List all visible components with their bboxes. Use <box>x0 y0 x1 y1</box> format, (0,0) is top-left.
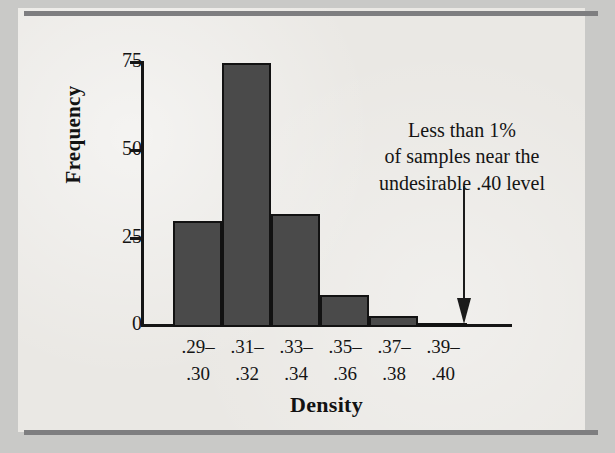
x-axis-title: Density <box>141 392 512 418</box>
y-axis-title: Frequency <box>61 55 86 215</box>
y-tick-label-0: 0 <box>96 313 142 333</box>
figure-root: Frequency 75 50 25 0 .29– .30 <box>0 0 615 453</box>
bar-1 <box>222 63 271 327</box>
bar-4 <box>369 316 418 327</box>
x-label-5-line2: .40 <box>412 361 474 388</box>
annotation-line-1: Less than 1% <box>336 117 588 143</box>
arrow-head <box>457 298 471 324</box>
annotation-callout: Less than 1% of samples near the undesir… <box>336 117 588 196</box>
y-tick-label-50: 50 <box>96 138 142 158</box>
y-tick-label-75: 75 <box>96 50 142 70</box>
bar-0 <box>173 221 222 327</box>
arrow-shaft <box>463 186 465 302</box>
x-axis-labels: .29– .30 .31– .32 .33– .34 .35– .36 .37–… <box>141 334 512 392</box>
bar-2 <box>271 214 320 327</box>
bar-3 <box>320 295 369 327</box>
down-arrow-icon <box>457 186 471 324</box>
x-label-5: .39– .40 <box>412 334 474 388</box>
annotation-line-2: of samples near the <box>336 143 588 169</box>
x-label-5-line1: .39– <box>412 334 474 361</box>
histogram-plot: Frequency 75 50 25 0 .29– .30 <box>0 0 615 453</box>
y-tick-label-25: 25 <box>96 226 142 246</box>
